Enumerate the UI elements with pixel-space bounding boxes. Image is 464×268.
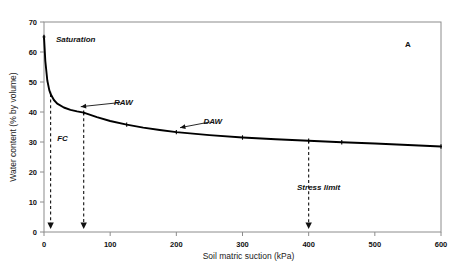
x-tick-label: 600: [435, 240, 448, 249]
y-tick-label: 30: [29, 138, 37, 147]
y-tick-label: 20: [29, 168, 37, 177]
y-axis-title: Water content (% by volume): [8, 72, 18, 181]
y-tick-label: 50: [29, 78, 37, 87]
x-tick-label: 300: [236, 240, 249, 249]
y-tick-label: 0: [33, 228, 37, 237]
x-tick-label: 100: [104, 240, 117, 249]
y-tick-label: 60: [29, 48, 37, 57]
panel-label: A: [405, 40, 411, 49]
fc-label: FC: [57, 134, 68, 143]
x-tick-label: 400: [302, 240, 315, 249]
y-tick-label: 40: [29, 108, 37, 117]
saturation-point-marker: [43, 36, 46, 39]
chart-figure: 010203040506070 0100200300400500600 Satu…: [0, 0, 464, 268]
stress-limit-label: Stress limit: [297, 183, 340, 192]
x-tick-label: 500: [369, 240, 382, 249]
y-tick-label: 10: [29, 198, 37, 207]
x-tick-label: 200: [170, 240, 183, 249]
x-axis-title: Soil matric suction (kPa): [203, 251, 295, 261]
saturation-label: Saturation: [56, 35, 96, 44]
daw-label: DAW: [203, 117, 223, 126]
y-tick-label: 70: [29, 18, 37, 27]
x-tick-label: 0: [42, 240, 46, 249]
raw-label: RAW: [114, 98, 134, 107]
water-retention-curve-chart: 010203040506070 0100200300400500600 Satu…: [0, 0, 464, 268]
